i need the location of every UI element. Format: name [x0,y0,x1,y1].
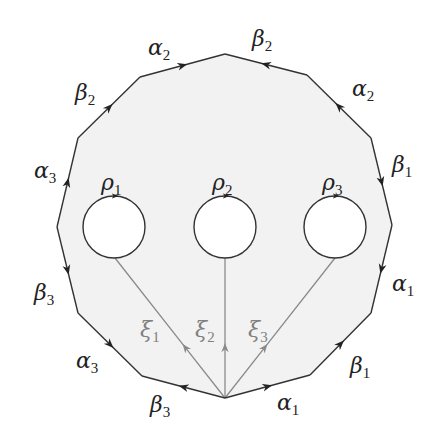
beta2-left-label: β2 [74,80,95,108]
beta1-bottom-right-label: β1 [349,353,370,381]
beta3-left-label: β3 [33,280,54,308]
beta3-bottom-label: β3 [149,392,170,420]
alpha3-left-label: α3 [34,158,56,186]
alpha2-right-label: α2 [352,76,374,104]
rho2-hole [194,196,256,258]
rho1-hole [83,196,145,258]
beta2-top-right-label: β2 [251,26,272,54]
fundamental-polygon-diagram: β2α2β1α1β1α1β3α3β3α3β2α2ρ1ρ2ρ3ξ1ξ2ξ3 [0,0,436,438]
alpha1-right-label: α1 [392,271,414,299]
beta1-right-label: β1 [391,152,412,180]
alpha3-bottom-left-label: α3 [76,348,98,376]
boundary-holes [83,196,366,258]
alpha1-bottom-label: α1 [277,390,299,418]
rho3-hole [304,196,366,258]
alpha2-top-left-label: α2 [148,35,170,63]
